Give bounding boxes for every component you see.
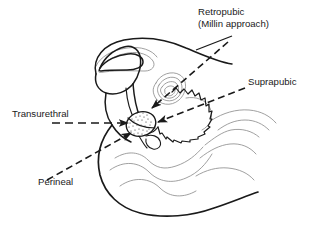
label-retropubic-line1: Retropubic — [198, 6, 245, 17]
label-suprapubic: Suprapubic — [248, 76, 297, 87]
prostate-surgical-approaches-diagram: Retropubic (Millin approach) Suprapubic … — [0, 0, 309, 227]
label-retropubic-line2: (Millin approach) — [198, 18, 269, 29]
label-perineal: Perineal — [38, 176, 73, 187]
label-transurethral: Transurethral — [12, 108, 69, 119]
